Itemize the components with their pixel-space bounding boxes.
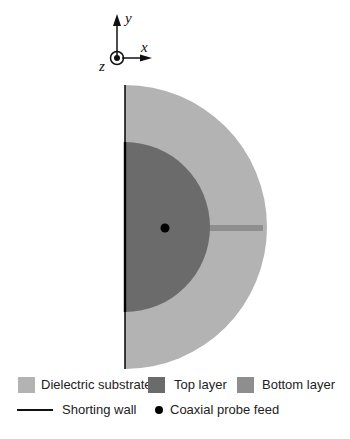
legend-label-top-layer: Top layer (174, 377, 227, 392)
legend-label-probe-feed: Coaxial probe feed (170, 402, 279, 417)
legend-label-shorting-wall: Shorting wall (62, 402, 136, 417)
legend-line-shorting-wall (17, 409, 53, 411)
legend: Dielectric substrate Top layer Bottom la… (0, 370, 350, 430)
legend-swatch-bottom-layer (237, 377, 254, 393)
bottom-layer-strip (205, 225, 263, 231)
legend-swatch-dielectric (18, 377, 35, 393)
legend-label-dielectric: Dielectric substrate (41, 377, 152, 392)
legend-label-bottom-layer: Bottom layer (262, 377, 335, 392)
coaxial-probe-feed (161, 224, 170, 233)
legend-swatch-top-layer (148, 377, 165, 393)
legend-dot-probe-feed (155, 406, 163, 414)
